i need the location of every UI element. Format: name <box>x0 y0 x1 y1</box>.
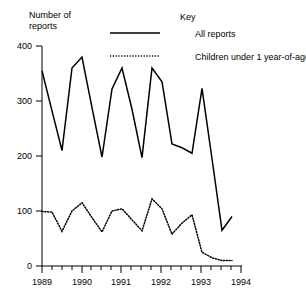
axes <box>36 46 242 273</box>
series-line-all-reports <box>42 57 232 230</box>
y-tick-100: 100 <box>6 206 32 216</box>
x-tick-1992: 1992 <box>141 277 181 287</box>
series-line-children-under-1 <box>42 199 232 261</box>
x-tick-1991: 1991 <box>101 277 141 287</box>
x-tick-1993: 1993 <box>181 277 221 287</box>
x-axis-ticks <box>42 266 241 273</box>
chart-figure: Number ofreports Key All reports Childre… <box>0 0 306 308</box>
legend-keys <box>110 33 160 56</box>
x-tick-1994: 1994 <box>221 277 261 287</box>
x-tick-1990: 1990 <box>62 277 102 287</box>
y-axis-major-ticks <box>36 46 42 266</box>
y-tick-200: 200 <box>6 151 32 161</box>
chart-canvas <box>0 0 306 308</box>
y-tick-400: 400 <box>6 41 32 51</box>
y-tick-300: 300 <box>6 96 32 106</box>
y-tick-0: 0 <box>6 261 32 271</box>
data-series <box>42 57 232 261</box>
x-tick-1989: 1989 <box>22 277 62 287</box>
